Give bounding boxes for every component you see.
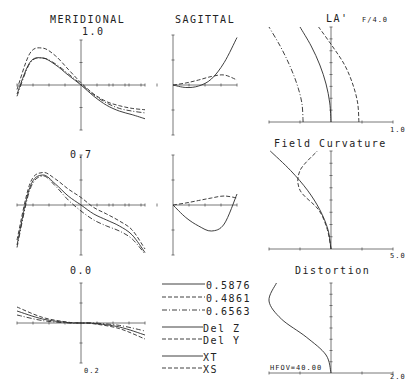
field-label-1-0: 1.0 <box>82 26 105 37</box>
legend-label-xs: XS <box>203 364 218 375</box>
field-curvature-scale: 5.0 <box>390 252 406 260</box>
legend-label-del-y: Del Y <box>203 335 241 346</box>
legend-label-0-5876: 0.5876 <box>206 280 251 291</box>
distortion-scale: 2.0 <box>390 373 406 381</box>
fnumber-label: F/4.0 <box>362 16 388 24</box>
field-label-0-0: 0.0 <box>70 265 93 276</box>
la-scale: 1.0 <box>390 126 406 134</box>
la-header: LA' <box>326 13 349 24</box>
legend-label-0-4861: 0.4861 <box>206 293 251 304</box>
legend-label-xt: XT <box>203 352 218 363</box>
ray-fan-curve <box>173 38 237 88</box>
meridional-header: MERIDIONAL <box>50 14 125 25</box>
ray-fan-scale: 0.2 <box>84 367 100 375</box>
aberration-curve <box>319 27 359 122</box>
hfov-label: HFOV=40.00 <box>270 364 322 372</box>
sagittal-header: SAGITTAL <box>175 14 235 25</box>
distortion-header: Distortion <box>295 265 370 276</box>
aberration-curve <box>270 151 331 249</box>
field-curvature-header: Field Curvature <box>274 138 387 149</box>
aberration-curve <box>269 27 303 122</box>
field-label-0-7: 0.7 <box>70 149 93 160</box>
aberration-curve <box>269 283 331 373</box>
aberration-curve <box>300 27 331 122</box>
optical-analysis-chart: MERIDIONAL SAGITTAL 1.0 0.7 0.0 0.2 LA' … <box>0 0 415 389</box>
legend-label-del-z: Del Z <box>203 323 241 334</box>
legend-label-0-6563: 0.6563 <box>206 306 251 317</box>
